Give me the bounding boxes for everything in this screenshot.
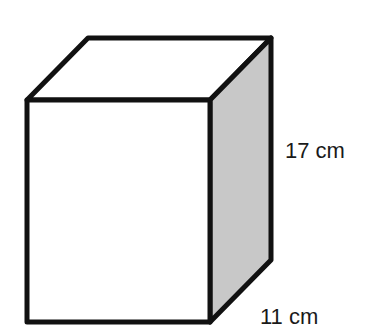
depth-label: 11 cm: [260, 306, 318, 328]
height-label: 17 cm: [285, 140, 345, 162]
front-face: [27, 100, 210, 322]
prism-diagram: [0, 0, 375, 328]
